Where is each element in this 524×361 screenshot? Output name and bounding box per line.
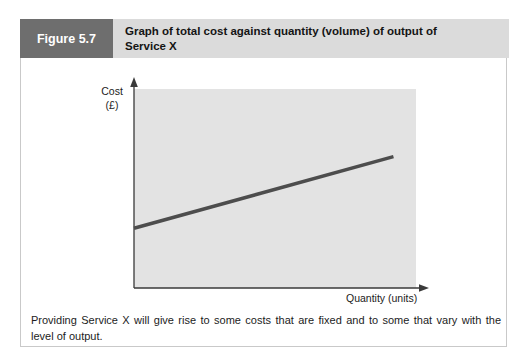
figure-caption: Providing Service X will give rise to so… <box>31 313 501 345</box>
total-cost-chart <box>126 76 446 316</box>
x-axis-label: Quantity (units) <box>346 292 417 304</box>
x-axis-arrowhead-icon <box>419 284 429 292</box>
figure-title: Graph of total cost against quantity (vo… <box>113 19 509 58</box>
figure-header: Figure 5.7 Graph of total cost against q… <box>20 19 509 58</box>
y-axis-arrowhead-icon <box>130 77 138 87</box>
figure-number-label: Figure 5.7 <box>20 19 113 58</box>
figure-panel: Figure 5.7 Graph of total cost against q… <box>20 19 507 347</box>
figure-title-text: Graph of total cost against quantity (vo… <box>125 24 471 54</box>
